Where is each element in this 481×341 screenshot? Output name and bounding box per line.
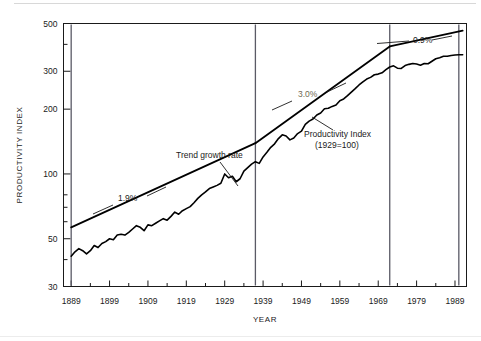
x-tick-label: 1989: [446, 296, 465, 306]
x-tick-label: 1929: [215, 296, 234, 306]
x-tick-label: 1979: [407, 296, 426, 306]
x-tick-label: 1959: [330, 296, 349, 306]
annotation-rate-1: 1.9%: [118, 193, 138, 203]
productivity-index-series: [71, 55, 462, 256]
annotation-rate-2: 3.0%: [298, 89, 318, 99]
leader-trend-label: [220, 162, 238, 186]
y-tick-label: 100: [43, 169, 57, 179]
y-axis-title: PRODUCTIVITY INDEX: [15, 106, 24, 203]
y-axis-tick-labels: 5003002001005030: [43, 19, 57, 292]
x-tick-label: 1909: [138, 296, 157, 306]
y-tick-label: 200: [43, 104, 57, 114]
x-axis-ticks: [71, 281, 455, 287]
annotation-leader-lines: [93, 36, 452, 214]
x-tick-label: 1969: [369, 296, 388, 306]
y-tick-label: 50: [48, 234, 58, 244]
y-tick-label: 30: [48, 282, 58, 292]
y-tick-label: 500: [43, 19, 57, 29]
annotation-rate-3: 0.9%: [413, 35, 433, 45]
productivity-index-line: [71, 55, 462, 256]
y-tick-label: 300: [43, 66, 57, 76]
productivity-index-chart: 5003002001005030 18891899190919191929193…: [0, 0, 481, 341]
x-tick-label: 1949: [292, 296, 311, 306]
x-axis-title: YEAR: [253, 315, 277, 324]
annotation-series-label-line2: (1929=100): [315, 140, 359, 150]
chart-figure: 5003002001005030 18891899190919191929193…: [0, 0, 481, 341]
x-axis-tick-labels: 1889189919091919192919391949195919691979…: [62, 296, 465, 306]
leader-rate-2-left: [272, 101, 292, 110]
annotation-trend-label: Trend growth rate: [176, 150, 243, 160]
annotation-series-label-line1: Productivity Index: [304, 129, 372, 139]
x-tick-label: 1899: [100, 296, 119, 306]
x-tick-label: 1919: [177, 296, 196, 306]
x-tick-label: 1889: [62, 296, 81, 306]
y-axis-ticks: [64, 24, 71, 287]
x-tick-label: 1939: [254, 296, 273, 306]
